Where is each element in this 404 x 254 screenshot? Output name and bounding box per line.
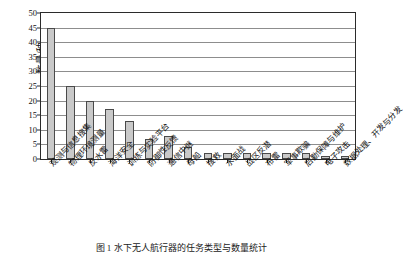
y-axis-tick-label: 30 xyxy=(29,67,38,76)
x-axis-tick-labels: 观测与信息搜集物理环境测量反水雷海洋安全训练与实验平台防御性反馈通信中继母船搜救… xyxy=(41,162,361,250)
y-axis-tick-label: 50 xyxy=(29,9,38,18)
y-axis-tick-label: 35 xyxy=(29,52,38,61)
figure-caption: 图 1 水下无人航行器的任务类型与数量统计 xyxy=(0,243,362,254)
y-axis-tick-label: 25 xyxy=(29,82,38,91)
bar-series xyxy=(41,13,355,159)
y-axis-tick-label: 40 xyxy=(29,38,38,47)
bar xyxy=(47,28,56,159)
y-axis-tick-label: 10 xyxy=(29,125,38,134)
y-axis-tick-label: 45 xyxy=(29,23,38,32)
y-axis-tick-label: 15 xyxy=(29,111,38,120)
y-axis-tick-label: 20 xyxy=(29,96,38,105)
